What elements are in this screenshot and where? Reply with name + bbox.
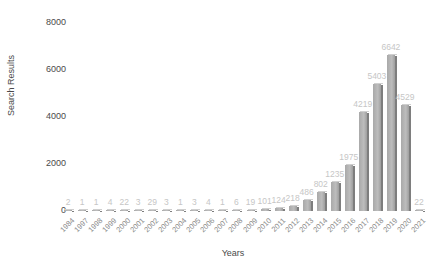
- y-tick-8000: 8000: [26, 17, 66, 27]
- bar-2005: [190, 210, 198, 212]
- bar-2009: [247, 210, 255, 212]
- bar-1998: [92, 210, 100, 212]
- bar-2010: [261, 209, 269, 211]
- bar-2008: [232, 210, 240, 212]
- bar-2003: [162, 210, 170, 212]
- bar-2001: [134, 210, 142, 212]
- x-axis-label: Years: [0, 248, 436, 258]
- bar-2004: [176, 210, 184, 212]
- y-tick-6000: 6000: [26, 64, 66, 74]
- bar-2021: [415, 210, 423, 212]
- bar-1984: [64, 210, 72, 212]
- bar-2020: [401, 105, 409, 211]
- bar-2007: [218, 210, 226, 212]
- bar-2017: [359, 112, 367, 211]
- bar-chart: Search Results 8000 6000 4000 2000 0 219…: [0, 0, 436, 267]
- bar-2016: [345, 165, 353, 211]
- bar-2013: [303, 200, 311, 211]
- bar-2015: [331, 182, 339, 211]
- bar-1999: [106, 210, 114, 212]
- value-label-2021: 22: [404, 197, 434, 207]
- y-tick-2000: 2000: [26, 158, 66, 168]
- value-label-2019: 6642: [376, 42, 406, 52]
- bar-2002: [148, 210, 156, 212]
- y-axis-label: Search Results: [6, 55, 16, 116]
- bar-2014: [317, 192, 325, 211]
- bar-2011: [275, 208, 283, 211]
- bar-1997: [78, 210, 86, 212]
- bar-2018: [373, 84, 381, 211]
- bar-2019: [387, 55, 395, 211]
- y-tick-0: 0: [26, 205, 66, 215]
- y-tick-4000: 4000: [26, 111, 66, 121]
- value-label-2020: 4529: [390, 92, 420, 102]
- bar-2000: [120, 210, 128, 212]
- bar-2006: [204, 210, 212, 212]
- bar-2012: [289, 206, 297, 211]
